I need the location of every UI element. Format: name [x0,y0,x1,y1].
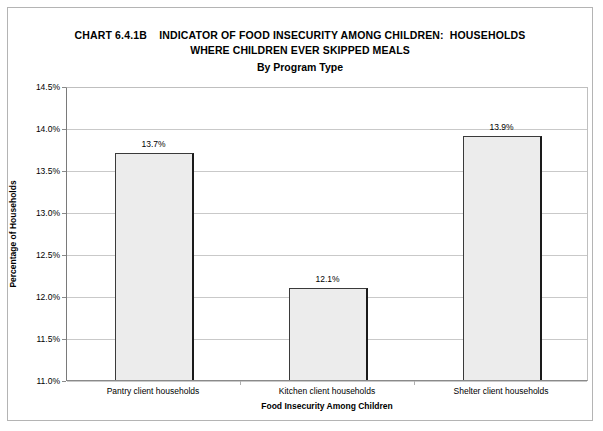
x-tick-mark [414,381,415,385]
chart-title-block: CHART 6.4.1B INDICATOR OF FOOD INSECURIT… [20,28,580,75]
bar: 12.1% [289,288,368,380]
x-tick-label: Shelter client households [454,386,549,396]
y-tick-label: 13.5% [36,166,60,176]
y-tick-label: 11.0% [37,376,60,386]
x-tick-mark [240,381,241,385]
y-tick-mark [62,381,66,382]
bar-value-label: 13.7% [141,139,165,149]
bars-layer: 13.7%12.1%13.9% [67,88,587,380]
bar: 13.7% [115,153,194,380]
chart-page: CHART 6.4.1B INDICATOR OF FOOD INSECURIT… [0,0,603,431]
plot-area: 13.7%12.1%13.9% [66,87,588,381]
x-axis-title: Food Insecurity Among Children [66,401,588,411]
y-tick-label: 14.5% [36,82,60,92]
bar-value-label: 12.1% [315,274,339,284]
x-axis-ticks: Pantry client householdsKitchen client h… [66,386,588,400]
y-tick-label: 11.5% [37,334,60,344]
x-tick-label: Kitchen client households [279,386,375,396]
y-tick-label: 12.0% [36,292,60,302]
bar: 13.9% [463,136,542,380]
y-tick-label: 12.5% [36,250,60,260]
gridline [67,381,587,382]
bar-value-label: 13.9% [489,122,513,132]
chart-subtitle: By Program Type [20,59,580,75]
y-tick-label: 13.0% [36,208,60,218]
chart-title-line-1: CHART 6.4.1B INDICATOR OF FOOD INSECURIT… [20,28,580,43]
y-tick-label: 14.0% [36,124,60,134]
y-axis-ticks: 11.0%11.5%12.0%12.5%13.0%13.5%14.0%14.5% [0,87,66,382]
x-tick-label: Pantry client households [107,386,200,396]
chart-title-line-2: WHERE CHILDREN EVER SKIPPED MEALS [20,43,580,58]
